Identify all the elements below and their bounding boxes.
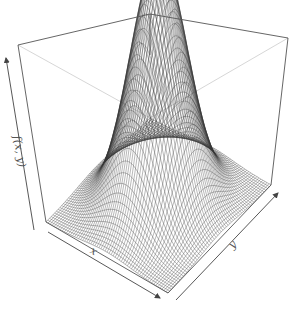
y-axis-label: y bbox=[225, 237, 240, 252]
axis-arrows bbox=[6, 58, 278, 300]
y-axis-arrow bbox=[176, 193, 278, 300]
surface-plot: f(x, y) x y bbox=[0, 0, 302, 319]
box-back-edges bbox=[18, 38, 288, 118]
z-axis-label: f(x, y) bbox=[10, 133, 29, 168]
